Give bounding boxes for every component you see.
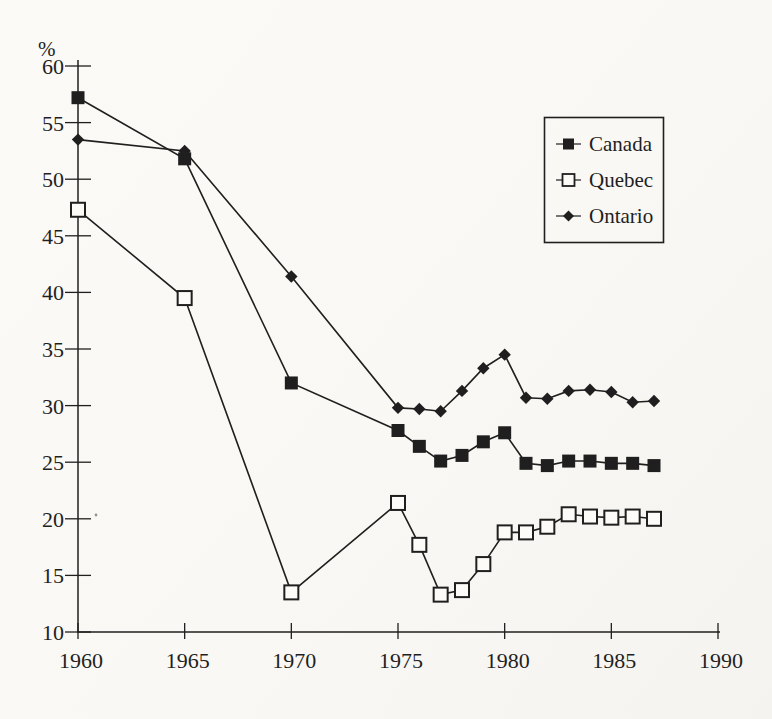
marker-filled-square [605,457,618,470]
marker-filled-diamond [605,386,617,398]
marker-open-square [284,585,298,599]
marker-filled-diamond [520,391,532,403]
marker-filled-square [285,376,298,389]
line-chart: % 10152025303540455055601960196519701975… [0,0,772,719]
marker-open-square [476,557,490,571]
marker-filled-square [584,455,597,468]
marker-filled-square [520,457,533,470]
x-tick-label-1970: 1970 [272,648,316,673]
marker-filled-square [434,455,447,468]
marker-filled-square [456,449,469,462]
marker-filled-square [72,91,85,104]
marker-filled-diamond [413,403,425,415]
marker-filled-square [541,459,554,472]
x-tick-label-1985: 1985 [592,648,636,673]
y-tick-label-45: 45 [42,224,64,249]
marker-open-square [498,525,512,539]
marker-filled-square [413,440,426,453]
x-tick-label-1990: 1990 [699,648,743,673]
y-tick-label-40: 40 [42,280,64,305]
marker-open-square [434,588,448,602]
marker-open-square [391,496,405,510]
marker-open-square [412,538,426,552]
marker-filled-square [477,435,490,448]
legend-item-quebec: Quebec [556,168,653,192]
marker-filled-diamond [563,211,574,222]
legend-label-quebec: Quebec [589,168,653,192]
y-tick-label-55: 55 [42,111,64,136]
chart-content: 1015202530354045505560196019651970197519… [42,54,743,673]
x-tick-label-1975: 1975 [379,648,423,673]
legend-item-ontario: Ontario [556,204,653,228]
marker-open-square [563,174,575,186]
marker-open-square [604,511,618,525]
legend: CanadaQuebecOntario [545,118,664,243]
marker-filled-square [498,426,511,439]
marker-open-square [626,510,640,524]
marker-filled-diamond [584,384,596,396]
marker-open-square [540,520,554,534]
marker-open-square [178,291,192,305]
y-tick-label-60: 60 [42,54,64,79]
marker-filled-square [626,457,639,470]
marker-filled-diamond [72,133,84,145]
y-tick-label-35: 35 [42,337,64,362]
x-tick-label-1965: 1965 [166,648,210,673]
scanned-chart-page: % 10152025303540455055601960196519701975… [0,0,772,719]
marker-filled-square [562,455,575,468]
marker-open-square [519,525,533,539]
marker-filled-diamond [541,393,553,405]
marker-open-square [583,510,597,524]
x-tick-label-1980: 1980 [486,648,530,673]
y-tick-label-30: 30 [42,394,64,419]
series-quebec-line [78,210,654,595]
legend-item-canada: Canada [556,132,653,156]
legend-label-ontario: Ontario [589,204,653,228]
legend-label-canada: Canada [589,132,653,156]
marker-filled-square [392,424,405,437]
marker-filled-square [563,139,574,150]
marker-open-square [71,203,85,217]
marker-filled-diamond [648,395,660,407]
y-tick-label-25: 25 [42,450,64,475]
marker-open-square [562,507,576,521]
marker-filled-square [648,459,661,472]
y-tick-label-15: 15 [42,563,64,588]
y-tick-label-50: 50 [42,167,64,192]
y-tick-label-10: 10 [42,620,64,645]
y-tick-label-20: 20 [42,507,64,532]
marker-open-square [455,583,469,597]
scan-speckle [95,514,98,517]
series-quebec [71,203,661,602]
marker-filled-diamond [498,348,510,360]
marker-filled-diamond [626,396,638,408]
marker-open-square [647,512,661,526]
marker-filled-diamond [562,385,574,397]
x-tick-label-1960: 1960 [59,648,103,673]
